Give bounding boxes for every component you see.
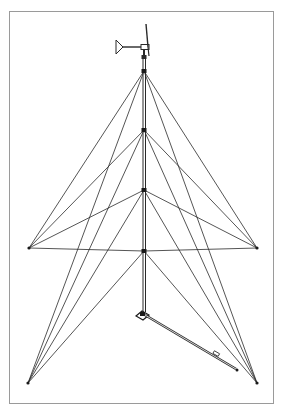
wind-turbine [116, 24, 149, 59]
gin-pole [145, 315, 239, 372]
tower-mast [143, 55, 146, 312]
tail-fin-icon [116, 40, 123, 54]
tower-diagram [0, 0, 284, 414]
